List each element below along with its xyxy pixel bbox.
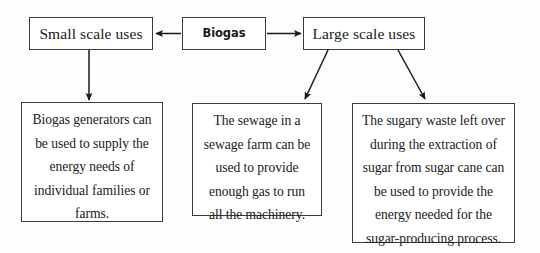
node-biogas-label: Biogas xyxy=(183,28,265,40)
arrow-large-scale-to-sugar xyxy=(398,50,425,99)
node-detail-sewage-label: The sewage in a sewage farm can be used … xyxy=(197,109,317,227)
node-small-scale-uses-label: Small scale uses xyxy=(30,26,152,42)
node-large-scale-uses[interactable]: Large scale uses xyxy=(303,17,425,50)
node-detail-sugar[interactable]: The sugary waste left over during the ex… xyxy=(352,103,515,243)
node-detail-sewage[interactable]: The sewage in a sewage farm can be used … xyxy=(192,103,322,216)
node-detail-sugar-label: The sugary waste left over during the ex… xyxy=(357,109,510,250)
node-biogas[interactable]: Biogas xyxy=(182,17,266,50)
node-detail-small-scale-label: Biogas generators can be used to supply … xyxy=(26,108,158,226)
node-large-scale-uses-label: Large scale uses xyxy=(304,26,424,42)
biogas-flowchart: Small scale uses Biogas Large scale uses… xyxy=(0,0,540,253)
arrow-large-scale-to-sewage xyxy=(305,50,328,99)
node-small-scale-uses[interactable]: Small scale uses xyxy=(29,17,153,50)
node-detail-small-scale[interactable]: Biogas generators can be used to supply … xyxy=(21,102,163,222)
